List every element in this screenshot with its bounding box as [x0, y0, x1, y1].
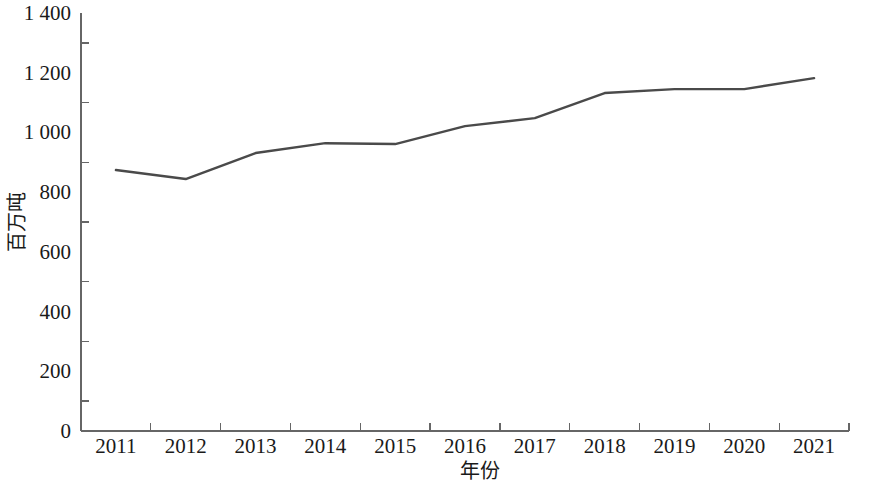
x-axis-ticks: [81, 423, 849, 431]
y-axis-title: 百万吨: [6, 192, 28, 252]
y-tick-label: 400: [40, 300, 72, 324]
x-tick-label: 2020: [723, 434, 765, 458]
y-tick-label: 0: [61, 419, 72, 443]
data-series-line: [116, 78, 814, 179]
y-tick-label: 200: [40, 359, 72, 383]
x-tick-label: 2018: [584, 434, 626, 458]
y-tick-label: 1 200: [24, 61, 71, 85]
x-tick-label: 2011: [95, 434, 136, 458]
x-tick-label: 2017: [514, 434, 556, 458]
y-axis-ticks: [81, 43, 89, 401]
y-axis-tick-labels: 02004006008001 0001 2001 400: [24, 1, 71, 443]
x-tick-label: 2013: [235, 434, 277, 458]
y-tick-label: 1 000: [24, 120, 71, 144]
line-chart: 百万吨 年份 02004006008001 0001 2001 400 2011…: [0, 0, 875, 486]
x-axis-tick-labels: 2011201220132014201520162017201820192020…: [95, 434, 835, 458]
y-tick-label: 600: [40, 240, 72, 264]
y-tick-label: 1 400: [24, 1, 71, 25]
x-tick-label: 2019: [653, 434, 695, 458]
x-tick-label: 2012: [165, 434, 207, 458]
x-axis-title: 年份: [460, 460, 500, 482]
chart-canvas: 百万吨 年份 02004006008001 0001 2001 400 2011…: [0, 0, 875, 486]
x-tick-label: 2015: [374, 434, 416, 458]
x-tick-label: 2016: [444, 434, 486, 458]
x-tick-label: 2021: [793, 434, 835, 458]
x-tick-label: 2014: [304, 434, 347, 458]
y-tick-label: 800: [40, 180, 72, 204]
